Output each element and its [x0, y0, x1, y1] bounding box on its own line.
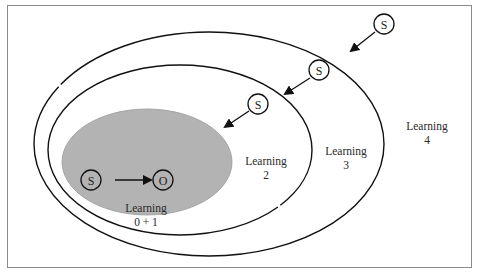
s-outer-label: S — [381, 18, 388, 32]
learning-0-1-label-line2: 0 + 1 — [134, 216, 158, 228]
learning-3-label-line2: 3 — [343, 159, 349, 171]
s-node-outer: S — [374, 14, 394, 34]
learning-2-label-line1: Learning — [245, 155, 287, 168]
s-node-middle: S — [309, 60, 329, 80]
s-node-inner: S — [248, 94, 268, 114]
learning-0-1-region — [62, 109, 232, 215]
learning-levels-diagram: S O Learning 0 + 1 Learning 2 Learning 3… — [0, 0, 477, 275]
s-inner-label: S — [255, 98, 262, 112]
inner-s-label: S — [88, 174, 95, 188]
inner-o-label: O — [159, 174, 168, 188]
learning-4-label-line2: 4 — [424, 134, 430, 146]
learning-0-1-label-line1: Learning — [125, 202, 167, 215]
s-middle-label: S — [316, 64, 323, 78]
learning-4-label-line1: Learning — [406, 120, 448, 133]
learning-2-label-line2: 2 — [263, 169, 269, 181]
learning-3-label-line1: Learning — [325, 145, 367, 158]
